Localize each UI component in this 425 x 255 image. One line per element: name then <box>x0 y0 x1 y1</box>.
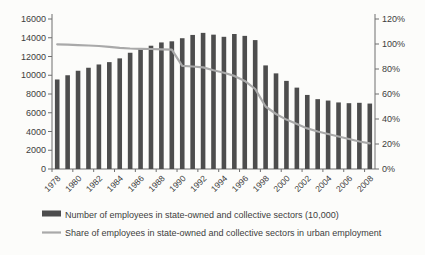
bar-1991 <box>190 35 195 169</box>
x-axis-label: 1992 <box>188 173 209 194</box>
bar-1979 <box>65 75 70 169</box>
bar-1978 <box>55 79 60 169</box>
legend-bar-label: Number of employees in state-owned and c… <box>65 210 339 220</box>
x-axis-label: 1984 <box>105 173 126 194</box>
bar-1992 <box>201 33 206 169</box>
bar-1987 <box>149 46 154 169</box>
x-axis-label: 1994 <box>209 173 230 194</box>
x-axis-label: 1986 <box>126 173 147 194</box>
y-axis-right-label: 120% <box>382 14 405 24</box>
bar-1997 <box>253 40 258 169</box>
y-axis-right-label: 100% <box>382 39 405 49</box>
y-axis-left-label: 0 <box>41 164 46 174</box>
y-axis-left-label: 14000 <box>21 33 46 43</box>
bar-1983 <box>107 62 112 169</box>
x-axis-label: 1996 <box>230 173 251 194</box>
y-axis-right-label: 80% <box>382 64 400 74</box>
bar-1996 <box>242 36 247 169</box>
bar-1990 <box>180 38 185 169</box>
x-axis-label: 1990 <box>167 173 188 194</box>
bar-1999 <box>274 73 279 169</box>
x-axis-label: 1998 <box>251 173 272 194</box>
y-axis-left-label: 6000 <box>26 108 46 118</box>
bar-2006 <box>347 103 352 169</box>
x-axis-label: 2000 <box>271 173 292 194</box>
y-axis-left-label: 12000 <box>21 52 46 62</box>
x-axis-label: 2004 <box>313 173 334 194</box>
y-axis-left-label: 10000 <box>21 70 46 80</box>
y-axis-left-label: 16000 <box>21 14 46 24</box>
bar-1995 <box>232 34 237 169</box>
y-axis-left-label: 8000 <box>26 89 46 99</box>
bar-1988 <box>159 42 164 169</box>
bar-1980 <box>76 71 81 169</box>
bar-1985 <box>128 53 133 169</box>
legend-line-label: Share of employees in state-owned and co… <box>65 228 382 238</box>
bar-2008 <box>367 104 372 169</box>
y-axis-right-label: 0% <box>382 164 395 174</box>
bar-2002 <box>305 95 310 169</box>
y-axis-left-label: 4000 <box>26 127 46 137</box>
bar-2000 <box>284 81 289 169</box>
bar-2007 <box>357 103 362 169</box>
x-axis-label: 2006 <box>334 173 355 194</box>
x-axis-label: 1988 <box>146 173 167 194</box>
employment-chart: 02000400060008000100001200014000160000%2… <box>0 0 425 255</box>
x-axis-label: 1978 <box>42 173 63 194</box>
bar-1994 <box>222 37 227 169</box>
chart-figure: 02000400060008000100001200014000160000%2… <box>0 0 425 255</box>
y-axis-right-label: 60% <box>382 89 400 99</box>
bar-1986 <box>138 49 143 169</box>
bar-1993 <box>211 35 216 169</box>
legend-bar-swatch <box>42 211 61 217</box>
bar-2003 <box>315 99 320 169</box>
bar-1998 <box>263 65 268 169</box>
x-axis-label: 1982 <box>84 173 105 194</box>
bar-2001 <box>295 88 300 169</box>
y-axis-left-label: 2000 <box>26 145 46 155</box>
bar-1984 <box>117 58 122 169</box>
bar-1982 <box>97 64 102 169</box>
y-axis-right-label: 20% <box>382 139 400 149</box>
y-axis-right-label: 40% <box>382 114 400 124</box>
x-axis-label: 1980 <box>63 173 84 194</box>
bar-1989 <box>170 41 175 169</box>
bar-1981 <box>86 68 91 169</box>
x-axis-label: 2002 <box>292 173 313 194</box>
x-axis-label: 2008 <box>355 173 376 194</box>
